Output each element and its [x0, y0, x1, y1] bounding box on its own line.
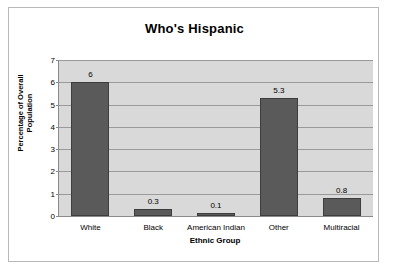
y-axis-title: Percentage of Overall Population	[16, 53, 34, 173]
bar[interactable]	[197, 213, 235, 216]
x-axis-tick-label: White	[80, 223, 100, 232]
y-axis-tick-mark	[56, 216, 59, 217]
y-axis-title-line-2: Population	[25, 53, 34, 173]
y-axis-title-line-1: Percentage of Overall	[16, 53, 25, 173]
plot-area: 012345676White0.3Black0.1American Indian…	[58, 60, 373, 217]
bar-value-label: 0.1	[210, 201, 221, 210]
x-axis-tick-label: Multiracial	[324, 223, 360, 232]
y-axis-tick-label: 4	[51, 122, 55, 131]
y-axis-tick-label: 6	[51, 78, 55, 87]
bar-value-label: 5.3	[273, 86, 284, 95]
bar[interactable]	[71, 82, 109, 216]
y-axis-tick-label: 2	[51, 167, 55, 176]
bar[interactable]	[260, 98, 298, 216]
chart-canvas: Who's Hispanic Percentage of Overall Pop…	[8, 7, 379, 262]
bar-value-label: 0.8	[336, 186, 347, 195]
y-axis-tick-label: 3	[51, 145, 55, 154]
bar[interactable]	[134, 209, 172, 216]
bar[interactable]	[323, 198, 361, 216]
bar-group: 0.3Black	[122, 60, 185, 216]
y-axis-tick-label: 5	[51, 100, 55, 109]
bar-group: 0.1American Indian	[185, 60, 248, 216]
x-axis-tick-label: American Indian	[187, 223, 245, 232]
x-axis-title: Ethnic Group	[58, 236, 372, 245]
bar-value-label: 0.3	[148, 197, 159, 206]
bar-group: 5.3Other	[247, 60, 310, 216]
bar-group: 0.8Multiracial	[310, 60, 373, 216]
y-axis-tick-label: 0	[51, 212, 55, 221]
bar-value-label: 6	[88, 70, 92, 79]
x-axis-tick-label: Black	[143, 223, 163, 232]
x-axis-tick-label: Other	[269, 223, 289, 232]
chart-title: Who's Hispanic	[9, 21, 380, 36]
y-axis-tick-label: 7	[51, 56, 55, 65]
y-axis-tick-label: 1	[51, 189, 55, 198]
bar-group: 6White	[59, 60, 122, 216]
